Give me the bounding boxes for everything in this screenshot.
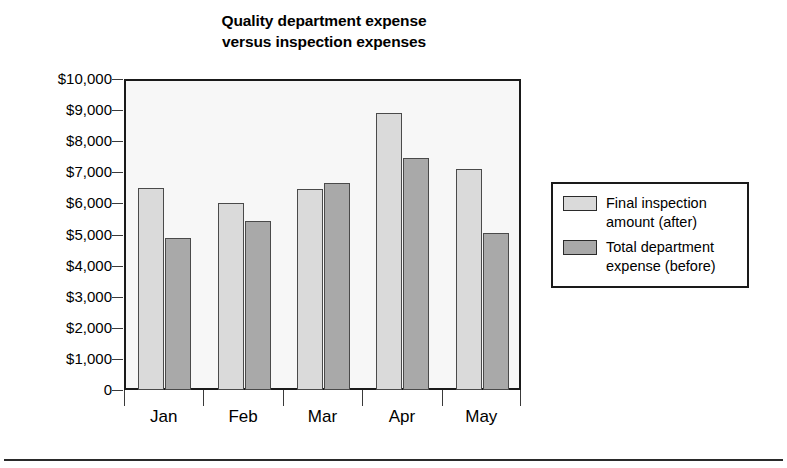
bar-mar-series-1 [297,189,323,390]
legend-label-final-inspection: Final inspection amount (after) [606,194,707,232]
bar-feb-series-1 [218,203,244,390]
bar-series-container [124,79,521,390]
x-axis-label-jan: Jan [124,407,204,427]
legend-label-total-department: Total department expense (before) [606,238,716,276]
bar-may-series-1 [456,169,482,390]
y-axis-ticks [0,79,124,390]
y-axis-tick-mark [112,359,123,360]
chart-title: Quality department expense versus inspec… [124,10,524,52]
legend-swatch-icon-total-department [563,240,597,255]
chart-title-line-1: Quality department expense [124,10,524,31]
bar-jan-series-2 [165,238,191,390]
x-axis-label-feb: Feb [203,407,283,427]
y-axis-tick-mark [112,297,123,298]
x-axis-tick-mark [442,390,443,406]
x-axis-tick-mark [283,390,284,406]
bar-group-apr [376,79,429,390]
x-axis-label-apr: Apr [362,407,442,427]
bar-mar-series-2 [324,183,350,390]
bar-apr-series-1 [376,113,402,390]
x-axis-tick-mark [362,390,363,406]
bar-group-mar [297,79,350,390]
legend-swatch-icon-final-inspection [563,196,597,211]
y-axis-tick-mark [112,203,123,204]
footer-divider [4,459,783,461]
y-axis-tick-mark [112,390,123,391]
chart-container: Quality department expense versus inspec… [0,0,787,468]
x-axis-label-may: May [441,407,521,427]
bar-feb-series-2 [245,221,271,390]
bar-group-jan [138,79,191,390]
x-axis-tick-mark [520,390,521,406]
y-axis-tick-mark [112,172,123,173]
legend-item-total-department: Total department expense (before) [563,238,716,276]
chart-title-line-2: versus inspection expenses [124,31,524,52]
bar-jan-series-1 [138,188,164,390]
x-axis-tick-mark [124,390,125,406]
y-axis-tick-mark [112,266,123,267]
y-axis-tick-mark [112,141,123,142]
x-axis-label-mar: Mar [283,407,363,427]
y-axis-tick-mark [112,328,123,329]
legend-item-final-inspection: Final inspection amount (after) [563,194,707,232]
bar-group-may [456,79,509,390]
x-axis: JanFebMarAprMay [124,390,521,430]
y-axis-tick-mark [112,110,123,111]
x-axis-tick-mark [203,390,204,406]
chart-legend: Final inspection amount (after) Total de… [551,182,749,288]
bar-apr-series-2 [403,158,429,390]
bar-group-feb [218,79,271,390]
bar-may-series-2 [483,233,509,390]
y-axis-tick-mark [112,235,123,236]
y-axis-tick-mark [112,79,123,80]
